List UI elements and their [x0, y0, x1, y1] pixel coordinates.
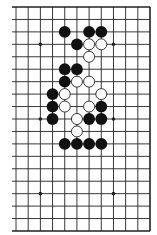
star-point [39, 43, 43, 47]
black-stone[interactable] [47, 88, 59, 100]
star-point [112, 192, 116, 196]
white-stone[interactable] [96, 39, 107, 50]
black-stone[interactable] [83, 26, 95, 38]
black-stone[interactable] [59, 26, 71, 38]
black-stone[interactable] [95, 101, 107, 113]
black-stone[interactable] [95, 113, 107, 125]
black-stone[interactable] [71, 38, 83, 50]
black-stone[interactable] [83, 138, 95, 150]
black-stone[interactable] [83, 113, 95, 125]
white-stone[interactable] [59, 89, 70, 100]
black-stone[interactable] [47, 113, 59, 125]
star-point [39, 117, 43, 121]
white-stone[interactable] [84, 51, 95, 62]
black-stone[interactable] [71, 138, 83, 150]
white-stone[interactable] [71, 76, 82, 87]
white-stone[interactable] [71, 114, 82, 125]
star-point [112, 43, 116, 47]
black-stone[interactable] [95, 26, 107, 38]
white-stone[interactable] [96, 89, 107, 100]
white-stone[interactable] [59, 101, 70, 112]
black-stone[interactable] [59, 76, 71, 88]
star-point [112, 117, 116, 121]
black-stone[interactable] [59, 138, 71, 150]
white-stone[interactable] [84, 39, 95, 50]
black-stone[interactable] [95, 138, 107, 150]
white-stone[interactable] [84, 101, 95, 112]
star-point [39, 192, 43, 196]
black-stone[interactable] [71, 63, 83, 75]
black-stone[interactable] [47, 101, 59, 113]
go-board[interactable] [0, 0, 157, 235]
white-stone[interactable] [84, 76, 95, 87]
white-stone[interactable] [71, 126, 82, 137]
black-stone[interactable] [59, 63, 71, 75]
